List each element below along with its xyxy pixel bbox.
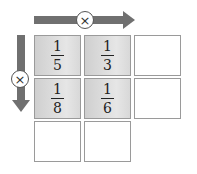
vertical-arrow-head-icon xyxy=(12,100,30,112)
fraction-bar xyxy=(51,55,64,56)
fraction-bar xyxy=(101,55,114,56)
multiply-operator-horizontal: × xyxy=(76,11,94,29)
denominator: 5 xyxy=(53,58,62,72)
denominator: 3 xyxy=(103,58,112,72)
grid-cell-r1c2: 1 3 xyxy=(84,35,131,76)
answer-cell-r1c3[interactable] xyxy=(134,35,181,76)
grid-cell-r1c1: 1 5 xyxy=(34,35,81,76)
vertical-arrow xyxy=(17,35,25,101)
numerator: 1 xyxy=(53,39,62,53)
answer-cell-r2c3[interactable] xyxy=(134,78,181,119)
grid-cell-r2c2: 1 6 xyxy=(84,78,131,119)
denominator: 6 xyxy=(103,101,112,115)
numerator: 1 xyxy=(103,39,112,53)
grid-cell-r2c1: 1 8 xyxy=(34,78,81,119)
fraction-bar xyxy=(51,98,64,99)
answer-cell-r3c2[interactable] xyxy=(84,121,131,162)
answer-cell-r3c1[interactable] xyxy=(34,121,81,162)
fraction-bar xyxy=(101,98,114,99)
numerator: 1 xyxy=(103,82,112,96)
fraction: 1 3 xyxy=(101,39,114,72)
denominator: 8 xyxy=(53,101,62,115)
numerator: 1 xyxy=(53,82,62,96)
fraction: 1 8 xyxy=(51,82,64,115)
horizontal-arrow-head-icon xyxy=(123,11,135,29)
multiply-operator-vertical: × xyxy=(11,70,29,88)
fraction: 1 5 xyxy=(51,39,64,72)
fraction: 1 6 xyxy=(101,82,114,115)
